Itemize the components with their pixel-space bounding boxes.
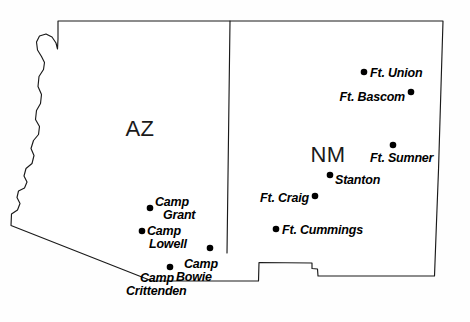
site-dot-camp-lowell[interactable]: [139, 228, 146, 235]
site-label-stanton: Stanton: [335, 173, 381, 187]
state-label-az: AZ: [125, 116, 154, 141]
site-label-ft-bascom: Ft. Bascom: [340, 90, 405, 104]
site-label-ft-sumner: Ft. Sumner: [370, 151, 435, 165]
site-label-camp-lowell-line2: Lowell: [149, 237, 187, 251]
site-label-camp-grant-line2: Grant: [163, 208, 196, 222]
site-ft-union[interactable]: Ft. Union: [361, 66, 423, 80]
site-label-camp-bowie-line1: Camp: [184, 257, 218, 271]
site-label-camp-lowell-line1: Camp: [147, 224, 181, 238]
site-dot-camp-grant[interactable]: [147, 205, 154, 212]
site-dot-ft-craig[interactable]: [312, 193, 319, 200]
site-dot-camp-bowie[interactable]: [207, 245, 214, 252]
site-label-ft-cummings: Ft. Cummings: [282, 223, 363, 237]
site-label-camp-crittenden-line2: Crittenden: [126, 284, 187, 298]
site-dot-ft-sumner[interactable]: [390, 142, 397, 149]
site-ft-bascom[interactable]: Ft. Bascom: [340, 89, 415, 104]
map-container: AZ NM Ft. Union Ft. Bascom Ft. Sumner St…: [0, 0, 470, 322]
state-label-nm: NM: [310, 142, 345, 167]
site-label-ft-union: Ft. Union: [370, 66, 423, 80]
site-dot-ft-bascom[interactable]: [408, 89, 415, 96]
territory-map: AZ NM Ft. Union Ft. Bascom Ft. Sumner St…: [0, 0, 470, 322]
site-dot-ft-cummings[interactable]: [273, 226, 280, 233]
site-dot-stanton[interactable]: [327, 172, 334, 179]
site-ft-cummings[interactable]: Ft. Cummings: [273, 223, 363, 237]
site-dot-camp-crittenden[interactable]: [167, 264, 174, 271]
site-label-camp-bowie-line2: Bowie: [176, 270, 212, 284]
site-label-camp-crittenden-line1: Camp: [140, 271, 174, 285]
site-label-ft-craig: Ft. Craig: [260, 191, 309, 205]
site-label-camp-grant-line1: Camp: [155, 195, 189, 209]
site-stanton[interactable]: Stanton: [327, 172, 381, 187]
site-dot-ft-union[interactable]: [361, 69, 368, 76]
